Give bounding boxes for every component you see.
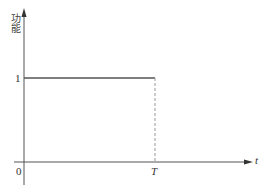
y-axis-label: 功能 xyxy=(8,13,20,33)
y-axis-arrow-icon xyxy=(22,8,27,17)
chart-canvas xyxy=(0,0,266,195)
origin-label: 0 xyxy=(16,166,22,177)
x-axis-arrow-icon xyxy=(244,160,253,165)
x-axis-label: t xyxy=(255,155,258,166)
x-tick-T: T xyxy=(151,166,157,177)
y-tick-1: 1 xyxy=(15,73,21,84)
